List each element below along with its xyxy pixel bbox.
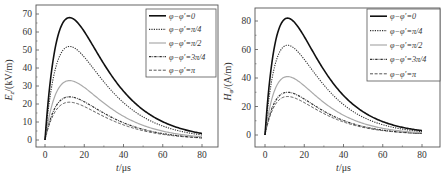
series-line — [45, 81, 202, 140]
legend-label: φ−φ′=0 — [390, 12, 416, 21]
x-tick-label: 80 — [197, 150, 207, 160]
chart-panel-magnetic-field: 020406080t/μs020406080Hφ/(A/m)φ−φ′=0φ−φ′… — [222, 0, 444, 176]
chart-panel-electric-field: 020406080t/μs010203040506070Ez/(kV/m)φ−φ… — [0, 0, 222, 176]
legend-label: φ−φ′=π/2 — [390, 41, 422, 50]
x-axis-label: t/μs — [116, 162, 131, 173]
legend-label: φ−φ′=π/4 — [169, 25, 201, 34]
y-tick-label: 60 — [23, 27, 33, 37]
x-tick-label: 60 — [378, 150, 388, 160]
x-tick-label: 0 — [263, 150, 268, 160]
legend: φ−φ′=0φ−φ′=π/4φ−φ′=π/2φ−φ′=3π/4φ−φ′=π — [367, 9, 440, 81]
y-axis: 020406080 — [242, 16, 259, 140]
y-tick-label: 20 — [242, 102, 252, 112]
x-tick-label: 40 — [119, 150, 129, 160]
y-tick-label: 50 — [23, 45, 33, 55]
x-axis-label: t/μs — [336, 162, 351, 173]
y-tick-label: 0 — [27, 135, 32, 145]
legend-label: φ−φ′=3π/4 — [169, 53, 205, 62]
y-axis: 010203040506070 — [23, 9, 40, 145]
y-tick-label: 40 — [242, 73, 252, 83]
legend-label: φ−φ′=π — [169, 66, 196, 75]
y-tick-label: 10 — [23, 117, 33, 127]
y-tick-label: 40 — [23, 63, 33, 73]
y-axis-label: Hφ/(A/m) — [222, 62, 235, 101]
legend-label: φ−φ′=π/4 — [390, 27, 422, 36]
legend-label: φ−φ′=0 — [169, 12, 195, 21]
x-tick-label: 20 — [300, 150, 310, 160]
chart-magnetic-field: 020406080t/μs020406080Hφ/(A/m)φ−φ′=0φ−φ′… — [222, 0, 444, 176]
y-tick-label: 20 — [23, 99, 33, 109]
y-tick-label: 80 — [242, 16, 252, 26]
x-tick-label: 60 — [158, 150, 168, 160]
legend-label: φ−φ′=π — [390, 70, 417, 79]
y-tick-label: 60 — [242, 45, 252, 55]
legend-label: φ−φ′=π/2 — [169, 39, 201, 48]
x-axis: 020406080 — [43, 144, 207, 160]
legend: φ−φ′=0φ−φ′=π/4φ−φ′=π/2φ−φ′=3π/4φ−φ′=π — [146, 9, 216, 77]
y-tick-label: 70 — [23, 9, 33, 19]
x-tick-label: 80 — [417, 150, 427, 160]
y-axis-label: Ez/(kV/m) — [3, 59, 16, 101]
y-tick-label: 0 — [246, 130, 251, 140]
chart-electric-field: 020406080t/μs010203040506070Ez/(kV/m)φ−φ… — [0, 0, 222, 176]
x-tick-label: 40 — [339, 150, 349, 160]
x-axis: 020406080 — [263, 144, 427, 160]
x-tick-label: 20 — [80, 150, 90, 160]
y-tick-label: 30 — [23, 81, 33, 91]
legend-label: φ−φ′=3π/4 — [390, 55, 426, 64]
x-tick-label: 0 — [43, 150, 48, 160]
